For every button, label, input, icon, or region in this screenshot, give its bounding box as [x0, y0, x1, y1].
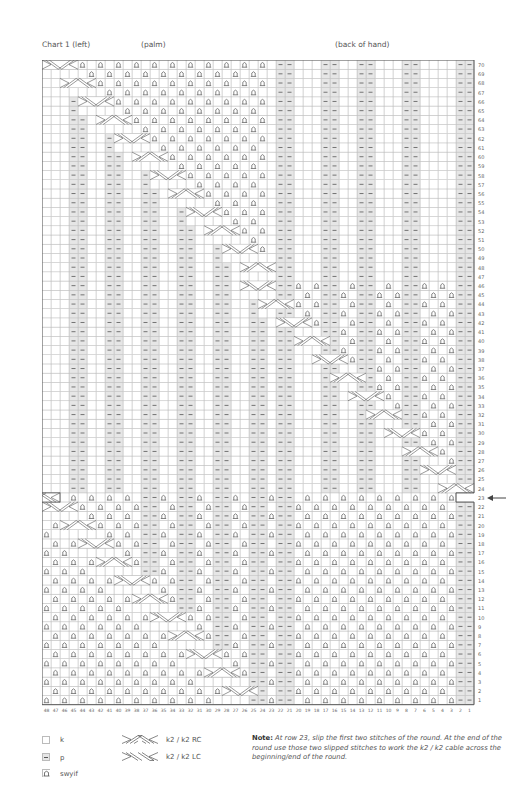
purl-swatch-icon — [42, 753, 50, 761]
legend: k p swyif k2 / k2 RC k2 / k2 LC — [0, 0, 532, 804]
swyif-swatch-icon — [42, 769, 50, 777]
cable-lc-icon — [122, 752, 158, 761]
knit-swatch-icon — [42, 736, 50, 744]
cable-rc-icon — [122, 735, 158, 744]
chart-note: Note: At row 23, slip the first two stit… — [252, 734, 522, 763]
